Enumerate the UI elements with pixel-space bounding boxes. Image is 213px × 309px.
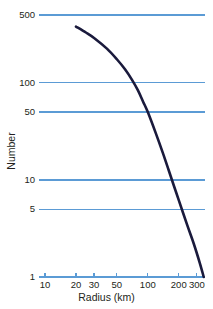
- x-axis-title: Radius (km): [0, 291, 213, 303]
- y-tick-label: 100: [0, 78, 35, 88]
- chart-container: 151050100500 10203050100200300 Number Ra…: [0, 0, 213, 309]
- y-tick-label: 5: [0, 204, 35, 214]
- gridlines: [39, 15, 205, 277]
- series-line: [76, 27, 204, 277]
- chart-plot-area: [0, 0, 213, 309]
- x-tick-label: 300: [177, 280, 213, 290]
- data-series: [76, 27, 204, 277]
- x-axis: [45, 273, 197, 277]
- y-axis-title: Number: [5, 116, 17, 186]
- y-tick-label: 500: [0, 10, 35, 20]
